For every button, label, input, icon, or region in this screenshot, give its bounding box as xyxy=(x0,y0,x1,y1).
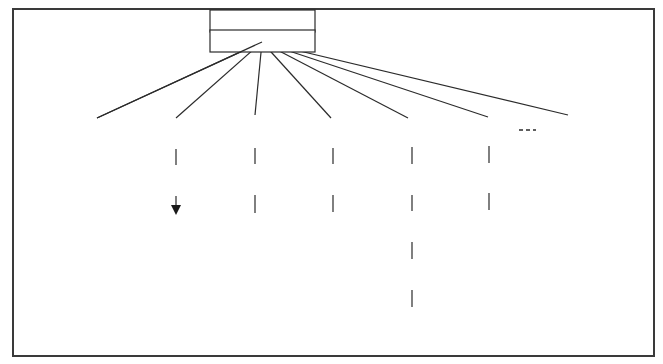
edges-final xyxy=(97,42,262,118)
tree xyxy=(0,0,663,364)
